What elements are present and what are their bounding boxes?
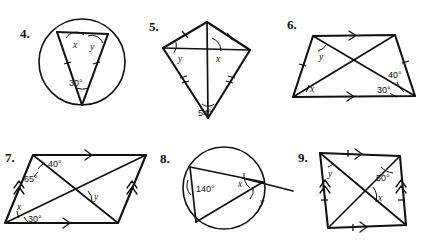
figure-8-circle-tangent: 140° x y bbox=[150, 125, 295, 250]
label-central-angle: 30° bbox=[69, 78, 83, 88]
label-y: y bbox=[89, 42, 95, 52]
problem-number-7: 7. bbox=[5, 151, 15, 164]
problem-5: 5. y x 54° bbox=[145, 0, 285, 125]
angle-arc-y bbox=[318, 44, 327, 51]
figure-9-parallelogram: y 50° x bbox=[290, 125, 435, 250]
label-y: y bbox=[318, 52, 324, 62]
problem-number-6: 6. bbox=[287, 18, 297, 31]
label-x: x bbox=[237, 179, 243, 189]
label-angle-50: 50° bbox=[376, 173, 390, 183]
diagonal-bl-tr bbox=[5, 155, 146, 223]
label-y: y bbox=[259, 197, 265, 207]
label-angle-65: 65° bbox=[24, 174, 38, 184]
label-x: x bbox=[309, 84, 315, 94]
angle-arc-140 bbox=[187, 180, 191, 195]
angle-arc-30 bbox=[76, 88, 89, 89]
problem-4: 4. x y 30° bbox=[0, 0, 145, 125]
label-x: x bbox=[72, 40, 78, 50]
label-angle-40: 40° bbox=[48, 159, 62, 169]
label-vertex-angle: 54° bbox=[198, 108, 212, 118]
problem-9: 9. y 50° x bbox=[290, 125, 435, 250]
parallel-double-arrow-right-b bbox=[396, 186, 406, 193]
angle-arc-40 bbox=[38, 163, 45, 169]
problem-number-4: 4. bbox=[20, 27, 30, 40]
circle-outline bbox=[39, 19, 125, 105]
geometry-worksheet: 4. x y 30° 5. bbox=[0, 0, 435, 250]
label-angle-140: 140° bbox=[196, 184, 215, 194]
problem-number-8: 8. bbox=[160, 152, 170, 165]
label-y: y bbox=[93, 192, 99, 202]
problem-number-5: 5. bbox=[149, 20, 159, 33]
label-y: y bbox=[327, 169, 333, 179]
problem-6: 6. y x 40° 30° bbox=[285, 0, 435, 125]
problem-7: 7. 40° 65° y x 30° bbox=[0, 125, 150, 250]
figure-4-circle-chords: x y 30° bbox=[0, 0, 145, 125]
problem-8: 8. 140° x y bbox=[150, 125, 295, 250]
chord-right bbox=[82, 34, 108, 105]
label-angle-30: 30° bbox=[377, 85, 391, 95]
figure-7-parallelogram: 40° 65° y x 30° bbox=[0, 125, 150, 250]
label-angle-30: 30° bbox=[28, 214, 42, 224]
label-x: x bbox=[16, 202, 22, 212]
label-x: x bbox=[215, 54, 221, 64]
diagonal-bl-tr bbox=[328, 156, 400, 228]
label-angle-40: 40° bbox=[388, 70, 402, 80]
diagonal-vertical bbox=[207, 22, 208, 118]
label-x: x bbox=[377, 193, 383, 203]
chord-left bbox=[57, 32, 82, 105]
figure-5-kite: y x 54° bbox=[145, 0, 285, 125]
figure-6-trapezoid: y x 40° 30° bbox=[285, 0, 435, 125]
label-y: y bbox=[177, 54, 183, 64]
problem-number-9: 9. bbox=[298, 151, 308, 164]
